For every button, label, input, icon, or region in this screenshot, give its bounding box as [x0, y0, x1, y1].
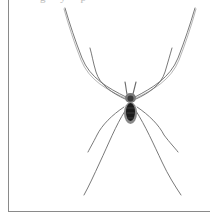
palp-right: [133, 82, 136, 94]
spider-illustration: [0, 0, 210, 215]
leg-third-left: [88, 107, 124, 152]
figure-frame: g y p: [0, 0, 210, 215]
leg-rear-right: [136, 111, 181, 195]
leg-front-left: [65, 8, 126, 97]
leg-second-right: [136, 48, 172, 99]
palp-left: [125, 82, 127, 94]
leg-second-left: [90, 48, 125, 99]
leg-third-right: [137, 107, 178, 152]
leg-front-right: [135, 8, 195, 97]
